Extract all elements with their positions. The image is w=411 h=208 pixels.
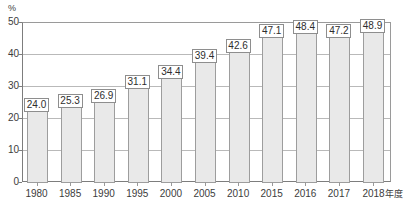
bar bbox=[27, 106, 48, 183]
y-axis-tick-label: 50 bbox=[0, 17, 19, 27]
x-axis-category-year: 2018 bbox=[362, 188, 384, 199]
bar-value-label: 25.3 bbox=[58, 94, 83, 108]
y-axis-tick-label: 40 bbox=[0, 49, 19, 59]
x-axis-tick-mark bbox=[272, 182, 273, 186]
x-axis-tick-mark bbox=[104, 182, 105, 186]
x-axis-category-year: 1980 bbox=[25, 188, 47, 199]
x-axis-category-year: 2017 bbox=[328, 188, 350, 199]
bar bbox=[229, 47, 250, 183]
x-axis-tick-mark bbox=[238, 182, 239, 186]
bar bbox=[195, 57, 216, 183]
y-axis-tick-label: 30 bbox=[0, 81, 19, 91]
x-axis-tick-mark bbox=[171, 182, 172, 186]
x-axis-tick-mark bbox=[137, 182, 138, 186]
bar bbox=[161, 73, 182, 183]
x-axis-category-year: 1995 bbox=[126, 188, 148, 199]
x-axis-category-year: 2005 bbox=[193, 188, 215, 199]
x-axis-category-year: 2000 bbox=[160, 188, 182, 199]
x-axis-tick-mark bbox=[305, 182, 306, 186]
y-axis-tick-mark bbox=[18, 54, 22, 55]
y-axis-tick-labels: 01020304050 bbox=[0, 0, 19, 208]
y-axis-tick-mark bbox=[18, 86, 22, 87]
y-axis-tick-mark bbox=[18, 182, 22, 183]
bar bbox=[94, 97, 115, 183]
x-axis-tick-mark bbox=[339, 182, 340, 186]
y-axis-tick-mark bbox=[18, 118, 22, 119]
x-axis-tick-mark bbox=[70, 182, 71, 186]
bar bbox=[128, 83, 149, 183]
y-axis-tick-mark bbox=[18, 22, 22, 23]
bar-value-label: 39.4 bbox=[192, 49, 217, 63]
x-axis-tick-mark bbox=[205, 182, 206, 186]
bar bbox=[61, 102, 82, 183]
x-axis-unit-suffix: 年度 bbox=[385, 189, 403, 199]
bar bbox=[296, 28, 317, 183]
x-axis-tick-mark bbox=[373, 182, 374, 186]
x-axis-category-year: 2010 bbox=[227, 188, 249, 199]
bar-value-label: 26.9 bbox=[91, 89, 116, 103]
bar-chart: % 01020304050 24.0198025.3198526.9199031… bbox=[0, 0, 411, 208]
bar-value-label: 31.1 bbox=[125, 75, 150, 89]
bar-value-label: 48.4 bbox=[293, 20, 318, 34]
bar bbox=[363, 27, 384, 183]
x-axis-category-year: 2016 bbox=[294, 188, 316, 199]
x-axis-category-year: 2015 bbox=[261, 188, 283, 199]
x-axis-category-label: 2018年度 bbox=[351, 188, 411, 200]
bar-value-label: 34.4 bbox=[158, 65, 183, 79]
bar-value-label: 42.6 bbox=[226, 39, 251, 53]
y-axis-tick-label: 20 bbox=[0, 113, 19, 123]
bar bbox=[329, 32, 350, 183]
y-axis-tick-label: 10 bbox=[0, 145, 19, 155]
x-axis-category-year: 1990 bbox=[93, 188, 115, 199]
bar bbox=[262, 32, 283, 183]
bar-value-label: 24.0 bbox=[24, 98, 49, 112]
y-axis-tick-mark bbox=[18, 150, 22, 151]
x-axis-category-year: 1985 bbox=[59, 188, 81, 199]
y-axis-tick-label: 0 bbox=[0, 177, 19, 187]
bar-value-label: 47.2 bbox=[326, 24, 351, 38]
bar-value-label: 47.1 bbox=[259, 24, 284, 38]
x-axis-tick-mark bbox=[37, 182, 38, 186]
bar-value-label: 48.9 bbox=[360, 19, 385, 33]
